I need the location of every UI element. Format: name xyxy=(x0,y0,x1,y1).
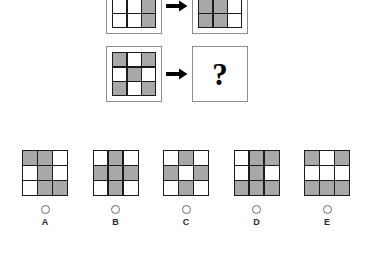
option-b-grid xyxy=(93,150,139,196)
option-c[interactable]: C xyxy=(163,150,209,227)
grid-cell-0 xyxy=(235,151,249,165)
question-mark: ? xyxy=(212,59,228,90)
option-a[interactable]: A xyxy=(22,150,68,227)
option-b-label: B xyxy=(112,217,119,227)
grid-cell-3 xyxy=(94,166,108,180)
option-d-radio[interactable] xyxy=(252,205,261,214)
grid-cell-4 xyxy=(109,166,123,180)
grid-cell-1 xyxy=(128,53,141,66)
answer-options: A B C D E xyxy=(0,150,372,227)
grid-cell-6 xyxy=(305,181,319,195)
grid-cell-5 xyxy=(265,166,279,180)
option-b-radio[interactable] xyxy=(111,205,120,214)
grid-cell-5 xyxy=(228,0,241,13)
grid-cell-5 xyxy=(335,166,349,180)
grid-cell-3 xyxy=(164,166,178,180)
option-e-radio[interactable] xyxy=(323,205,332,214)
grid-cell-7 xyxy=(214,14,227,27)
grid-cell-8 xyxy=(124,181,138,195)
grid-cell-8 xyxy=(142,82,155,95)
grid-cell-1 xyxy=(179,151,193,165)
grid-cell-2 xyxy=(53,151,67,165)
option-e[interactable]: E xyxy=(304,150,350,227)
grid-cell-1 xyxy=(320,151,334,165)
grid-cell-8 xyxy=(265,181,279,195)
grid-cell-8 xyxy=(142,14,155,27)
grid-cell-4 xyxy=(128,68,141,81)
grid-cell-4 xyxy=(128,0,141,13)
grid-cell-4 xyxy=(214,0,227,13)
grid-cell-2 xyxy=(265,151,279,165)
option-d[interactable]: D xyxy=(234,150,280,227)
grid-cell-6 xyxy=(23,181,37,195)
option-e-grid xyxy=(304,150,350,196)
matrix-row-1 xyxy=(106,0,248,34)
grid-cell-7 xyxy=(250,181,264,195)
option-c-radio[interactable] xyxy=(182,205,191,214)
option-c-grid xyxy=(163,150,209,196)
grid-cell-5 xyxy=(142,68,155,81)
grid-cell-7 xyxy=(128,82,141,95)
grid-cell-8 xyxy=(194,181,208,195)
option-d-grid xyxy=(234,150,280,196)
option-a-radio[interactable] xyxy=(41,205,50,214)
grid-cell-4 xyxy=(38,166,52,180)
row-2-source-grid xyxy=(112,52,156,96)
grid-cell-0 xyxy=(164,151,178,165)
right-arrow-icon xyxy=(162,46,192,102)
grid-cell-3 xyxy=(113,68,126,81)
option-c-label: C xyxy=(183,217,190,227)
grid-cell-0 xyxy=(94,151,108,165)
puzzle-stage: ? A B C D E xyxy=(0,0,372,257)
grid-cell-6 xyxy=(164,181,178,195)
grid-cell-6 xyxy=(94,181,108,195)
grid-cell-8 xyxy=(335,181,349,195)
grid-cell-0 xyxy=(305,151,319,165)
row-2-result-panel: ? xyxy=(192,46,248,102)
option-a-grid xyxy=(22,150,68,196)
grid-cell-8 xyxy=(53,181,67,195)
grid-cell-5 xyxy=(124,166,138,180)
grid-cell-2 xyxy=(335,151,349,165)
grid-cell-5 xyxy=(194,166,208,180)
grid-cell-4 xyxy=(250,166,264,180)
grid-cell-7 xyxy=(38,181,52,195)
grid-cell-7 xyxy=(128,14,141,27)
grid-cell-1 xyxy=(38,151,52,165)
grid-cell-6 xyxy=(113,14,126,27)
grid-cell-3 xyxy=(113,0,126,13)
grid-cell-7 xyxy=(109,181,123,195)
grid-cell-6 xyxy=(113,82,126,95)
right-arrow-icon xyxy=(162,0,192,34)
grid-cell-7 xyxy=(179,181,193,195)
grid-cell-6 xyxy=(199,14,212,27)
grid-cell-4 xyxy=(179,166,193,180)
grid-cell-2 xyxy=(142,53,155,66)
grid-cell-2 xyxy=(124,151,138,165)
matrix-row-2: ? xyxy=(106,46,248,102)
row-1-result-grid xyxy=(198,0,242,28)
grid-cell-1 xyxy=(250,151,264,165)
option-b[interactable]: B xyxy=(93,150,139,227)
grid-cell-3 xyxy=(235,166,249,180)
row-1-source-panel xyxy=(106,0,162,34)
grid-cell-7 xyxy=(320,181,334,195)
grid-cell-3 xyxy=(23,166,37,180)
grid-cell-8 xyxy=(228,14,241,27)
row-1-source-grid xyxy=(112,0,156,28)
row-2-source-panel xyxy=(106,46,162,102)
row-1-result-panel xyxy=(192,0,248,34)
grid-cell-0 xyxy=(23,151,37,165)
grid-cell-0 xyxy=(113,53,126,66)
grid-cell-5 xyxy=(142,0,155,13)
option-e-label: E xyxy=(324,217,330,227)
grid-cell-3 xyxy=(199,0,212,13)
grid-cell-2 xyxy=(194,151,208,165)
option-d-label: D xyxy=(253,217,260,227)
grid-cell-3 xyxy=(305,166,319,180)
grid-cell-6 xyxy=(235,181,249,195)
grid-cell-1 xyxy=(109,151,123,165)
grid-cell-5 xyxy=(53,166,67,180)
grid-cell-4 xyxy=(320,166,334,180)
option-a-label: A xyxy=(42,217,49,227)
